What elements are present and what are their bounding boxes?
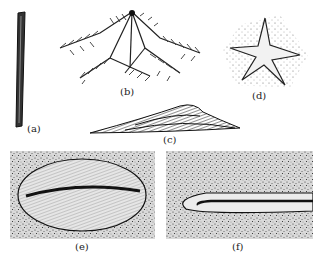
oval-impression-illustration: [10, 151, 155, 239]
wedge-fossil-illustration: [85, 100, 245, 135]
trail-impression-illustration: [166, 151, 313, 239]
label-f: (f): [232, 241, 244, 252]
label-a: (a): [27, 123, 41, 134]
label-c: (c): [163, 134, 176, 145]
panel-d: (d): [220, 10, 310, 105]
panel-b: (b): [50, 8, 210, 98]
label-e: (e): [75, 241, 89, 252]
starfish-impression-illustration: [220, 10, 310, 90]
label-b: (b): [120, 86, 134, 97]
rod-fossil-illustration: [8, 8, 48, 128]
panel-a: (a): [8, 8, 48, 128]
label-d: (d): [252, 90, 266, 101]
panel-f: (f): [166, 151, 313, 256]
panel-c: (c): [85, 100, 245, 148]
branching-fossil-illustration: [50, 8, 210, 88]
panel-e: (e): [10, 151, 155, 256]
